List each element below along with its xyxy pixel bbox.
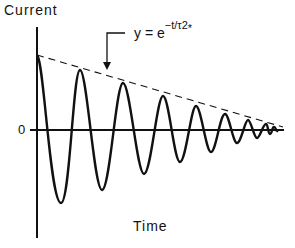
zero-label: 0 — [18, 122, 25, 137]
arrow-head-icon — [103, 62, 111, 70]
pointer-arrow — [107, 33, 125, 64]
equation-star: * — [188, 22, 192, 34]
y-axis-label: Current — [4, 2, 58, 18]
equation-exponent: −t/τ2 — [165, 19, 188, 31]
x-axis-label: Time — [133, 218, 168, 234]
equation-base: y = e — [134, 25, 165, 41]
envelope-equation: y = e−t/τ2* — [134, 22, 192, 41]
